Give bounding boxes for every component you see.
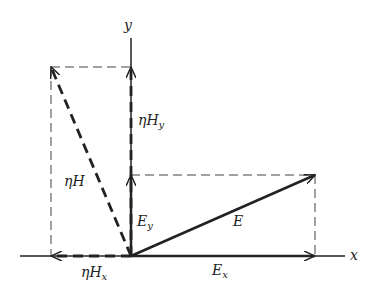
x-axis-label: x <box>350 247 358 263</box>
label-E: E <box>232 213 243 229</box>
label-etaHy: ηHy <box>138 112 165 130</box>
y-axis-label: y <box>123 17 133 33</box>
field-vector-diagram: y x E Ex Ey ηH ηHx ηHy <box>0 0 367 291</box>
label-etaH: ηH <box>64 173 85 189</box>
label-Ex: Ex <box>211 262 228 280</box>
vector-etaH <box>51 67 131 256</box>
label-Ey: Ey <box>136 213 153 231</box>
vector-E <box>131 175 315 256</box>
label-etaHx: ηHx <box>81 264 108 282</box>
